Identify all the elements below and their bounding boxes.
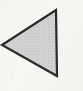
left-triangle-icon: Left-pointing triangle: [0, 0, 83, 91]
triangle-shape: [2, 10, 57, 76]
figure-canvas: Left-pointing triangle: [0, 0, 83, 91]
